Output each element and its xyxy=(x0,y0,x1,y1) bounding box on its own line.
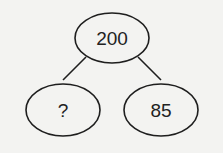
connector-right xyxy=(138,57,161,80)
right-part-value: 85 xyxy=(150,100,171,121)
whole-node: 200 xyxy=(75,13,149,63)
connector-left xyxy=(63,57,86,80)
whole-value: 200 xyxy=(96,28,128,49)
part-node-left: ? xyxy=(26,84,100,136)
number-bond-diagram: 200 ? 85 xyxy=(0,0,223,153)
left-part-value: ? xyxy=(58,100,69,121)
part-node-right: 85 xyxy=(124,84,198,136)
